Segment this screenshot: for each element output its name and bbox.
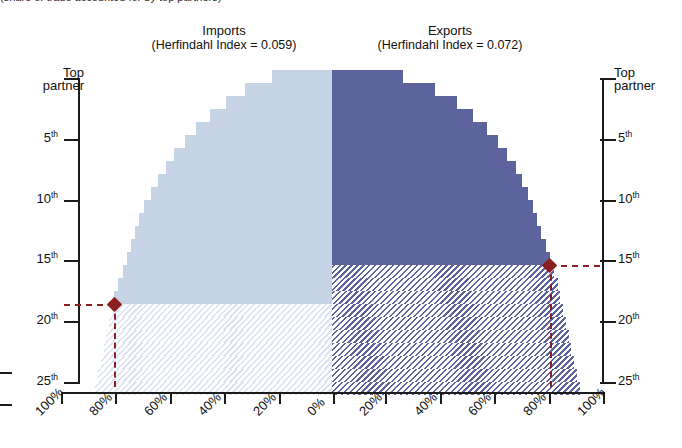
step-bar bbox=[158, 174, 332, 187]
step-bar bbox=[332, 265, 554, 278]
imports-guide-vertical bbox=[114, 304, 116, 387]
x-tick-left-5 bbox=[333, 392, 335, 404]
step-bar bbox=[332, 135, 498, 148]
y-label-left-10: 10th bbox=[14, 192, 58, 205]
x-tick-right-2 bbox=[494, 392, 496, 404]
step-bar bbox=[332, 161, 516, 174]
edge-bracket-fragment bbox=[0, 372, 12, 406]
y-tick-left-20 bbox=[64, 321, 80, 323]
exports-title-text: Exports bbox=[336, 24, 564, 38]
y-label-right-10: 10th bbox=[618, 192, 640, 205]
x-tick-left-3 bbox=[224, 392, 226, 404]
y-tick-left-10 bbox=[64, 200, 80, 202]
y-tick-right-5 bbox=[600, 139, 616, 141]
y-axis-right-top-label: Toppartner bbox=[614, 66, 670, 92]
y-label-right-5: 5th bbox=[618, 131, 632, 144]
step-bar bbox=[245, 83, 332, 96]
step-bar bbox=[123, 265, 332, 278]
y-tick-right-25 bbox=[600, 382, 616, 384]
y-label-left-25: 25th bbox=[14, 374, 58, 387]
y-axis-right-title-line2: partner bbox=[614, 79, 670, 92]
exports-step-series bbox=[332, 70, 604, 382]
step-bar bbox=[118, 278, 332, 291]
step-bar bbox=[332, 369, 577, 382]
y-tick-left-5 bbox=[64, 139, 80, 141]
chart-canvas: (share of trade accounted for by top par… bbox=[0, 0, 682, 448]
y-label-left-5: 5th bbox=[14, 131, 58, 144]
step-bar bbox=[131, 239, 332, 252]
step-bar bbox=[114, 291, 332, 304]
step-bar bbox=[332, 304, 563, 317]
y-tick-right-20 bbox=[600, 321, 616, 323]
step-bar bbox=[151, 187, 332, 200]
imports-herfindahl-label: (Herfindahl Index = 0.059) bbox=[116, 38, 332, 52]
step-bar bbox=[112, 304, 332, 317]
x-tick-right-3 bbox=[549, 392, 551, 404]
step-bar bbox=[332, 109, 473, 122]
y-tick-left-15 bbox=[64, 260, 80, 262]
step-bar bbox=[332, 174, 522, 187]
y-tick-right-top bbox=[600, 78, 616, 80]
y-tick-right-15 bbox=[600, 260, 616, 262]
x-label-left-0pct: 0% bbox=[304, 395, 328, 419]
step-bar bbox=[332, 356, 574, 369]
y-tick-left-top bbox=[64, 78, 80, 80]
step-bar bbox=[174, 148, 332, 161]
step-bar bbox=[104, 343, 332, 356]
y-label-left-15: 15th bbox=[14, 252, 58, 265]
step-bar bbox=[332, 148, 507, 161]
y-label-left-20: 20th bbox=[14, 313, 58, 326]
y-tick-right-10 bbox=[600, 200, 616, 202]
step-bar bbox=[332, 213, 537, 226]
x-tick-left-2 bbox=[170, 392, 172, 404]
step-bar bbox=[226, 96, 332, 109]
exports-half bbox=[332, 70, 604, 382]
y-label-right-20: 20th bbox=[618, 313, 640, 326]
step-bar bbox=[332, 239, 546, 252]
step-bar bbox=[332, 83, 435, 96]
step-bar bbox=[185, 135, 332, 148]
step-bar bbox=[166, 161, 332, 174]
step-bar bbox=[332, 226, 541, 239]
imports-half bbox=[60, 70, 332, 382]
step-bar bbox=[101, 356, 332, 369]
y-axis-left-title-line2: partner bbox=[28, 79, 84, 92]
imports-title-text: Imports bbox=[116, 24, 332, 38]
x-tick-right-1 bbox=[440, 392, 442, 404]
step-bar bbox=[106, 330, 332, 343]
step-bar bbox=[272, 70, 332, 83]
y-tick-left-25 bbox=[64, 382, 80, 384]
step-bar bbox=[332, 330, 569, 343]
step-bar bbox=[332, 187, 528, 200]
exports-panel-title: Exports (Herfindahl Index = 0.072) bbox=[336, 24, 564, 52]
y-axis-left-spine bbox=[78, 78, 80, 382]
imports-step-series bbox=[60, 70, 332, 382]
step-bar bbox=[109, 317, 332, 330]
exports-guide-vertical bbox=[550, 265, 552, 387]
y-label-right-15: 15th bbox=[618, 252, 640, 265]
step-bar bbox=[332, 70, 403, 83]
step-bar bbox=[332, 96, 457, 109]
step-bar bbox=[127, 252, 332, 265]
clipped-caption: (share of trade accounted for by top par… bbox=[0, 0, 682, 5]
step-bar bbox=[332, 317, 566, 330]
x-tick-left-4 bbox=[279, 392, 281, 404]
y-label-right-25: 25th bbox=[618, 374, 640, 387]
step-bar bbox=[332, 278, 558, 291]
step-bar bbox=[139, 213, 332, 226]
step-bar bbox=[332, 291, 560, 304]
x-tick-right-0 bbox=[385, 392, 387, 404]
step-bar bbox=[98, 369, 332, 382]
imports-panel-title: Imports (Herfindahl Index = 0.059) bbox=[116, 24, 332, 52]
step-bar bbox=[332, 200, 533, 213]
x-tick-left-1 bbox=[115, 392, 117, 404]
step-bar bbox=[332, 252, 550, 265]
step-bar bbox=[144, 200, 332, 213]
step-bar bbox=[210, 109, 332, 122]
y-axis-right-spine bbox=[602, 78, 604, 382]
step-bar bbox=[332, 122, 487, 135]
plot-area bbox=[60, 70, 620, 382]
exports-herfindahl-label: (Herfindahl Index = 0.072) bbox=[336, 38, 564, 52]
step-bar bbox=[135, 226, 332, 239]
step-bar bbox=[332, 343, 571, 356]
